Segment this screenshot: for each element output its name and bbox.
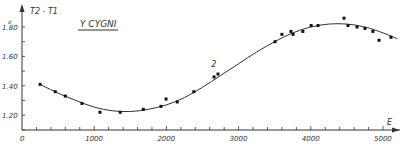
x-tick-label: 0 (20, 135, 25, 143)
data-point (310, 24, 313, 27)
data-point (64, 95, 67, 98)
x-tick-label: 4000 (302, 135, 320, 143)
data-point (119, 111, 122, 114)
point-annotation: 2 (211, 60, 216, 69)
y-tick-label: 1.40 (2, 83, 18, 91)
data-point (356, 26, 359, 29)
data-point (159, 105, 162, 108)
data-point (343, 17, 346, 20)
y-tick-label: 1.80 (2, 24, 18, 32)
data-point (280, 33, 283, 36)
data-point (346, 24, 349, 27)
data-point (371, 30, 374, 33)
y-axis-arrow-icon (20, 4, 25, 12)
data-point (389, 36, 392, 39)
y-tick-label: 1.60 (2, 53, 18, 61)
x-tick-label: 1000 (85, 135, 103, 143)
data-point (39, 83, 42, 86)
y-axis-label: T2 - T1 (30, 7, 58, 16)
data-point (292, 33, 295, 36)
axes: 0100020003000400050001.201.401.601.80d (2, 4, 400, 143)
data-point (176, 100, 179, 103)
data-point (217, 73, 220, 76)
data-point (192, 90, 195, 93)
data-point (363, 27, 366, 30)
data-point (317, 24, 320, 27)
chart-labels: Y CYGNI T2 - T1 E 2 (30, 7, 393, 127)
chart: 0100020003000400050001.201.401.601.80d Y… (0, 0, 406, 147)
x-axis-label: E (387, 118, 393, 127)
data-point (378, 39, 381, 42)
fitted-curve (40, 24, 397, 112)
data-point (301, 30, 304, 33)
data-point (54, 90, 57, 93)
fitted-curve-line (40, 24, 397, 112)
x-axis-arrow-icon (392, 128, 400, 133)
x-tick-label: 2000 (157, 135, 175, 143)
x-tick-label: 3000 (230, 135, 248, 143)
data-point (142, 108, 145, 111)
data-point (165, 98, 168, 101)
chart-title: Y CYGNI (80, 19, 117, 29)
data-point (213, 75, 216, 78)
data-point (80, 102, 83, 105)
y-tick-label: 1.20 (2, 112, 18, 120)
x-tick-label: 5000 (374, 135, 392, 143)
data-point (274, 40, 277, 43)
data-point (289, 30, 292, 33)
data-point (98, 111, 101, 114)
